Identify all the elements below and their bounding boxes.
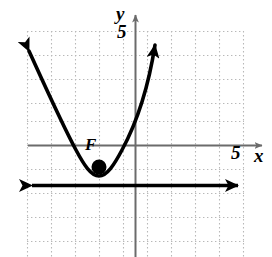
parabola-figure: y x 5 5 F [0, 0, 272, 257]
focus-point [92, 160, 107, 175]
x-axis-label: x [254, 146, 264, 165]
y-axis-tick-label-5: 5 [117, 22, 127, 41]
focus-label: F [85, 136, 96, 153]
x-axis-tick-label-5: 5 [231, 143, 241, 162]
coordinate-plane-svg [0, 0, 272, 257]
